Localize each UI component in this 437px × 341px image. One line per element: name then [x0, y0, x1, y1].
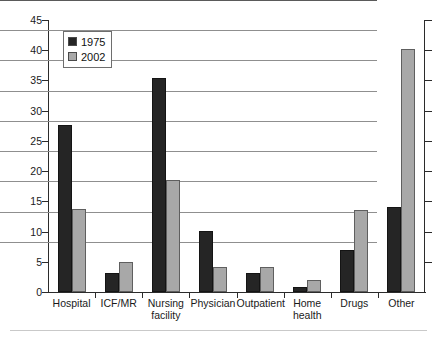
right-axis-tick-mark [425, 111, 432, 112]
chart-figure: Percent 051015202530354045 HospitalICF/M… [0, 0, 437, 341]
x-axis-category-label: ICF/MR [95, 297, 142, 309]
gridline-45 [0, 0, 377, 1]
right-axis-tick-mark [425, 171, 432, 172]
x-axis-category-label: Physician [189, 297, 236, 309]
y-axis-title: Percent [0, 152, 1, 168]
chart-legend: 1975 2002 [63, 31, 112, 68]
y-axis-tick-label: 20 [14, 165, 42, 177]
x-axis-category-label: Nursing facility [142, 297, 189, 321]
x-axis-category-label: Drugs [331, 297, 378, 309]
legend-entry-1975: 1975 [68, 34, 105, 49]
bar-2002-Physician [213, 267, 227, 292]
x-axis-category-label: Other [378, 297, 425, 309]
gridline-25 [0, 121, 377, 122]
gridline-15 [0, 181, 377, 182]
gridline-10 [0, 212, 377, 213]
gridline-40 [0, 30, 377, 31]
gridline-5 [0, 242, 377, 243]
y-axis-tick-label: 40 [14, 44, 42, 56]
gridline-35 [0, 60, 377, 61]
bar-1975-Drugs [340, 250, 354, 292]
y-axis-tick-mark [42, 111, 48, 112]
bar-1975-Physician [199, 231, 213, 292]
y-axis-tick-mark [42, 80, 48, 81]
bar-1975-Outpatient [246, 273, 260, 292]
bar-2002-Other [401, 49, 415, 292]
bar-2002-ICF-MR [119, 262, 133, 292]
bar-1975-Nursing-facility [152, 78, 166, 292]
y-axis-tick-label: 35 [14, 74, 42, 86]
black-square-swatch-icon [68, 37, 77, 46]
bar-2002-Outpatient [260, 267, 274, 292]
bar-2002-Hospital [72, 209, 86, 292]
right-axis-line [424, 20, 425, 293]
bar-2002-Nursing-facility [166, 180, 180, 292]
y-axis-tick-label: 5 [14, 256, 42, 268]
right-axis-tick-mark [425, 201, 432, 202]
y-axis-tick-label: 30 [14, 105, 42, 117]
y-axis-tick-label: 25 [14, 135, 42, 147]
bar-1975-Home-health [293, 287, 307, 292]
x-axis-category-label: Home health [284, 297, 331, 321]
right-axis-tick-mark [425, 80, 432, 81]
y-axis-tick-label: 15 [14, 195, 42, 207]
y-axis-tick-mark [42, 171, 48, 172]
y-axis-tick-label: 10 [14, 226, 42, 238]
right-axis-tick-mark [425, 50, 432, 51]
y-axis-tick-mark [42, 141, 48, 142]
bar-1975-Other [387, 207, 401, 292]
gray-square-swatch-icon [68, 52, 77, 61]
y-axis-tick-mark [42, 232, 48, 233]
x-axis-category-label: Hospital [48, 297, 95, 309]
bar-2002-Home-health [307, 280, 321, 292]
bar-1975-ICF-MR [105, 273, 119, 292]
right-axis-tick-mark [425, 141, 432, 142]
right-axis-tick-mark [425, 20, 432, 21]
legend-label-2002: 2002 [81, 51, 105, 63]
legend-label-1975: 1975 [81, 36, 105, 48]
y-axis-tick-mark [42, 201, 48, 202]
gridline-20 [0, 151, 377, 152]
legend-entry-2002: 2002 [68, 49, 105, 64]
y-axis-tick-label: 45 [14, 14, 42, 26]
y-axis-tick-mark [42, 292, 48, 293]
y-axis-tick-mark [42, 20, 48, 21]
right-axis-tick-mark [425, 232, 432, 233]
y-axis-tick-label: 0 [14, 286, 42, 298]
gridline-30 [0, 91, 377, 92]
y-axis-tick-mark [42, 262, 48, 263]
bar-1975-Hospital [58, 125, 72, 292]
right-axis-tick-mark [425, 262, 432, 263]
x-axis-category-label: Outpatient [237, 297, 284, 309]
footer-divider [10, 330, 427, 331]
y-axis-tick-mark [42, 50, 48, 51]
bar-2002-Drugs [354, 210, 368, 292]
